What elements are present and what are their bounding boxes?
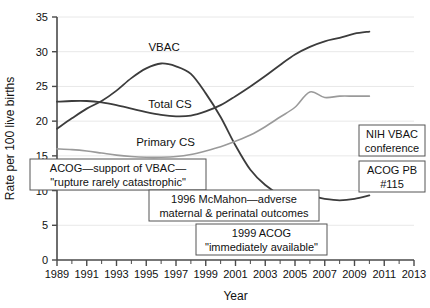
x-tick-label: 1991 — [75, 268, 99, 280]
y-tick-label: 35 — [36, 11, 48, 23]
chart-container: 05101520253035 1989199119931995199719992… — [0, 0, 430, 308]
annotation-mcmahon-1996: 1996 McMahon—adversematernal & perinatal… — [149, 190, 319, 221]
x-tick-label: 2011 — [372, 268, 396, 280]
line-chart: 05101520253035 1989199119931995199719992… — [0, 0, 430, 308]
annotation-acog-pb-115: ACOG PB#115 — [359, 161, 425, 192]
x-tick-label: 2005 — [283, 268, 307, 280]
x-tick-label: 1989 — [45, 268, 69, 280]
series-labels: VBACTotal CSPrimary CS — [136, 41, 195, 148]
series-label-primary-cs: Primary CS — [136, 136, 195, 148]
annotation-acog-support: ACOG—support of VBAC—"rupture rarely cat… — [30, 159, 206, 190]
annotation-line: conference — [365, 142, 419, 154]
series-label-total-cs: Total CS — [148, 98, 192, 110]
y-axis-tick-labels: 05101520253035 — [36, 11, 48, 266]
annotation-line: 1996 McMahon—adverse — [171, 193, 297, 205]
x-tick-label: 1995 — [134, 268, 158, 280]
annotation-line: ACOG PB — [367, 164, 417, 176]
annotation-line: #115 — [380, 178, 404, 190]
x-tick-label: 2001 — [223, 268, 247, 280]
x-tick-label: 2003 — [253, 268, 277, 280]
annotation-line: ACOG—support of VBAC— — [50, 162, 186, 174]
y-tick-label: 30 — [36, 46, 48, 58]
x-axis-title: Year — [223, 289, 247, 303]
x-tick-label: 1997 — [164, 268, 188, 280]
annotation-acog-1999: 1999 ACOG"immediately available" — [196, 224, 327, 255]
x-tick-label: 2009 — [342, 268, 366, 280]
x-tick-label: 2007 — [313, 268, 337, 280]
x-tick-label: 1993 — [104, 268, 128, 280]
y-axis-title: Rate per 100 live births — [3, 77, 17, 200]
series-line-primary-cs — [57, 92, 369, 158]
annotation-line: 1999 ACOG — [232, 227, 291, 239]
annotation-line: NIH VBAC — [366, 128, 418, 140]
annotation-nih-vbac-conference: NIH VBACconference — [359, 125, 425, 156]
annotation-line: "rupture rarely catastrophic" — [50, 176, 186, 188]
y-tick-label: 0 — [42, 254, 48, 266]
y-tick-label: 5 — [42, 219, 48, 231]
y-tick-label: 20 — [36, 115, 48, 127]
series-label-vbac: VBAC — [148, 41, 179, 53]
annotation-line: "immediately available" — [205, 241, 318, 253]
x-tick-label: 1999 — [194, 268, 218, 280]
annotation-line: maternal & perinatal outcomes — [159, 207, 309, 219]
x-axis-tick-labels: 1989199119931995199719992001200320052007… — [45, 268, 426, 280]
y-tick-label: 25 — [36, 80, 48, 92]
x-tick-label: 2013 — [402, 268, 426, 280]
